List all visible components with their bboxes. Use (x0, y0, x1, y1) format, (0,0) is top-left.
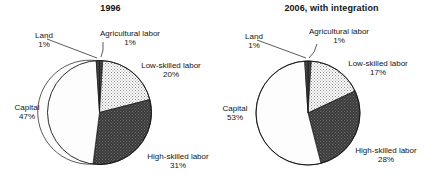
pie-label-low-skilled-name-right: Low-skilled labor (348, 59, 408, 68)
pie-label-land-pct-right: 1% (229, 41, 279, 50)
pie-label-high-skilled-pct-left: 31% (133, 161, 223, 170)
pie-panel-2006: 2006, with integration (221, 0, 442, 185)
pie-label-land-name-left: Land (35, 31, 53, 40)
pie-label-high-skilled-name-right: High-skilled labor (355, 146, 416, 155)
pie-label-land-right: Land 1% (229, 32, 279, 50)
pie-label-high-skilled-right: High-skilled labor 28% (341, 146, 431, 164)
pie-label-low-skilled-pct-left: 20% (127, 70, 215, 79)
pie-label-high-skilled-left: High-skilled labor 31% (133, 152, 223, 170)
pie-label-capital-left: Capital 47% (6, 103, 48, 121)
pie-label-capital-name-right: Capital (223, 104, 248, 113)
pie-label-high-skilled-pct-right: 28% (341, 155, 431, 164)
pie-label-agricultural-name-right: Agricultural labor (309, 27, 369, 36)
pie-label-high-skilled-name-left: High-skilled labor (147, 152, 208, 161)
pie-label-agricultural-pct-left: 1% (84, 38, 176, 47)
pie-label-low-skilled-name-left: Low-skilled labor (141, 61, 201, 70)
pie-panel-1996: 1996 (0, 0, 221, 185)
pie-label-low-skilled-pct-right: 17% (334, 68, 422, 77)
pie-label-agricultural-pct-right: 1% (293, 36, 385, 45)
two-pie-chart-figure: 1996 (0, 0, 442, 185)
pie-label-agricultural-name-left: Agricultural labor (100, 29, 160, 38)
pie-label-agricultural-right: Agricultural labor 1% (293, 27, 385, 45)
pie-label-land-left: Land 1% (18, 31, 70, 49)
pie-label-agricultural-left: Agricultural labor 1% (84, 29, 176, 47)
pie-label-capital-right: Capital 53% (214, 104, 256, 122)
pie-label-capital-pct-right: 53% (214, 113, 256, 122)
pie-label-land-pct-left: 1% (18, 40, 70, 49)
pie-label-capital-name-left: Capital (15, 103, 40, 112)
pie-label-low-skilled-left: Low-skilled labor 20% (127, 61, 215, 79)
pie-label-capital-pct-left: 47% (6, 112, 48, 121)
pie-label-low-skilled-right: Low-skilled labor 17% (334, 59, 422, 77)
pie-label-land-name-right: Land (245, 32, 263, 41)
